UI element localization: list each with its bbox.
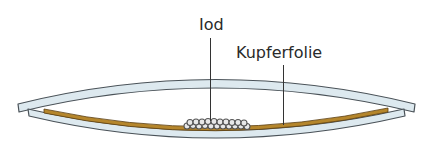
iodine-label: Iod xyxy=(199,17,224,33)
upper-watch-glass xyxy=(18,80,415,113)
copper-foil-label: Kupferfolie xyxy=(236,45,322,61)
iodine-crystals xyxy=(184,119,250,130)
watch-glass-diagram: Iod Kupferfolie xyxy=(0,0,429,154)
